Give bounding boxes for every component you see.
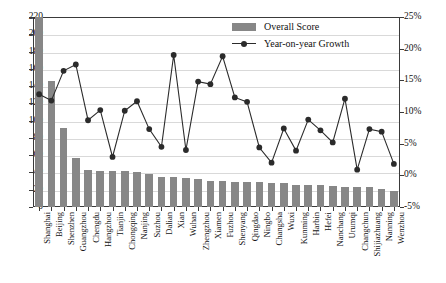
legend-item-year-on-year-growth: Year-on-year Growth xyxy=(232,35,400,52)
y-axis-right-tick xyxy=(400,207,404,208)
line-marker-icon xyxy=(232,40,256,48)
x-axis-tick xyxy=(149,207,150,211)
growth-data-point xyxy=(85,117,91,123)
growth-data-point xyxy=(146,126,152,132)
y-axis-right-tick xyxy=(400,144,404,145)
x-axis-tick xyxy=(76,207,77,211)
y-axis-right-tick-label: 20% xyxy=(404,44,442,54)
growth-data-point xyxy=(342,96,348,102)
x-axis-tick xyxy=(308,207,309,211)
x-axis-tick xyxy=(113,207,114,211)
growth-data-point xyxy=(318,127,324,133)
growth-data-point xyxy=(183,147,189,153)
x-axis-tick xyxy=(272,207,273,211)
y-axis-right-tick xyxy=(400,80,404,81)
chart-container: 020406080100120140160180200220 -5%0%5%10… xyxy=(0,0,446,283)
x-axis-tick xyxy=(210,207,211,211)
x-axis-tick xyxy=(357,207,358,211)
x-axis-tick xyxy=(64,207,65,211)
x-axis-tick xyxy=(333,207,334,211)
x-axis-tick xyxy=(284,207,285,211)
growth-data-point xyxy=(232,95,238,101)
x-axis-tick-label: Changchun xyxy=(361,212,370,251)
x-axis-tick-label: Nanjing xyxy=(140,212,149,239)
legend-label-year-on-year-growth: Year-on-year Growth xyxy=(264,38,349,49)
x-axis-tick-label: Changsha xyxy=(275,212,284,246)
x-axis-tick xyxy=(161,207,162,211)
growth-data-point xyxy=(330,140,336,146)
x-axis-tick-label: Beijing xyxy=(55,212,64,237)
x-axis-tick-label: Hefei xyxy=(324,212,333,231)
x-axis-tick-label: Chengdu xyxy=(92,212,101,243)
growth-data-point xyxy=(244,99,250,105)
growth-data-point xyxy=(207,81,213,87)
x-axis-tick xyxy=(39,207,40,211)
growth-data-point xyxy=(48,98,54,104)
x-axis-tick-label: Hangzhou xyxy=(104,212,113,247)
y-axis-right-tick xyxy=(400,175,404,176)
x-axis-tick xyxy=(51,207,52,211)
x-axis-tick xyxy=(174,207,175,211)
x-axis-tick-label: Xian xyxy=(177,212,186,229)
x-axis-tick xyxy=(235,207,236,211)
x-axis-tick-label: Shenyang xyxy=(238,212,247,246)
x-axis-tick xyxy=(320,207,321,211)
x-axis-tick-label: Suzhou xyxy=(153,212,162,238)
y-axis-right-tick xyxy=(400,17,404,18)
x-axis-tick-label: Shenzhen xyxy=(67,212,76,245)
growth-data-point xyxy=(220,53,226,59)
x-axis-tick xyxy=(88,207,89,211)
chart-legend: Overall Score Year-on-year Growth xyxy=(232,18,400,52)
growth-data-point xyxy=(256,145,262,151)
x-axis-tick-label: Urumqi xyxy=(348,212,357,238)
bar-swatch-icon xyxy=(232,23,256,31)
x-axis-tick xyxy=(223,207,224,211)
x-axis-tick xyxy=(369,207,370,211)
x-axis-tick-label: Xiamen xyxy=(214,212,223,239)
legend-label-overall-score: Overall Score xyxy=(264,21,319,32)
y-axis-right-tick xyxy=(400,112,404,113)
x-axis-tick-label: Harbin xyxy=(312,212,321,236)
x-axis-tick-label: Guangzhou xyxy=(79,212,88,251)
y-axis-right-tick-label: 10% xyxy=(404,107,442,117)
x-axis-tick-label: Ningbo xyxy=(263,212,272,238)
growth-data-point xyxy=(305,117,311,123)
y-axis-right-tick xyxy=(400,49,404,50)
x-axis-tick-label: Shanghai xyxy=(43,212,52,244)
x-axis-tick xyxy=(137,207,138,211)
growth-data-point xyxy=(281,126,287,132)
y-axis-right-tick-label: 0% xyxy=(404,170,442,180)
x-axis-tick-label: Kunming xyxy=(300,212,309,244)
x-axis-tick xyxy=(125,207,126,211)
x-axis-tick xyxy=(186,207,187,211)
x-axis-tick-label: Chongqing xyxy=(128,212,137,250)
x-axis-tick-label: Dalian xyxy=(165,212,174,235)
legend-item-overall-score: Overall Score xyxy=(232,18,400,35)
x-axis-tick-label: Nanning xyxy=(385,212,394,241)
growth-data-point xyxy=(97,107,103,113)
x-axis-tick-label: Fuzhou xyxy=(226,212,235,238)
y-axis-right-tick-label: 15% xyxy=(404,75,442,85)
x-axis-tick-label: Qingdao xyxy=(251,212,260,241)
x-axis-tick xyxy=(100,207,101,211)
y-axis-right-tick-label: 5% xyxy=(404,139,442,149)
x-axis-tick xyxy=(259,207,260,211)
x-axis-tick-label: Wenzhou xyxy=(397,212,406,244)
y-axis-left-tick xyxy=(29,207,33,208)
y-axis-right-tick-label: 25% xyxy=(404,12,442,22)
x-axis-tick xyxy=(198,207,199,211)
growth-data-point xyxy=(293,148,299,154)
x-axis-tick xyxy=(296,207,297,211)
growth-data-point xyxy=(269,160,275,166)
x-axis-tick-label: Wuxi xyxy=(287,212,296,231)
y-axis-right-tick-label: -5% xyxy=(404,202,442,212)
growth-data-point xyxy=(134,98,140,104)
growth-data-point xyxy=(391,161,397,167)
growth-data-point xyxy=(122,108,128,114)
growth-data-point xyxy=(171,52,177,58)
x-axis-tick-label: Zhengzhou xyxy=(202,212,211,250)
x-axis-tick-label: Wuhan xyxy=(189,212,198,236)
x-axis-tick xyxy=(247,207,248,211)
x-axis-tick-label: Shijiazhuang xyxy=(373,212,382,256)
growth-data-point xyxy=(36,91,42,97)
